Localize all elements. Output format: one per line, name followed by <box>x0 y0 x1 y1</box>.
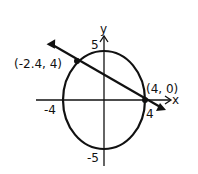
y-axis-label: y <box>100 22 107 36</box>
label-point1: (-2.4, 4) <box>14 57 62 71</box>
label-top: 5 <box>91 38 99 52</box>
line-arrow-start-icon <box>47 39 60 51</box>
label-bottom: -5 <box>87 151 99 165</box>
point-intersection-2 <box>142 97 148 103</box>
label-point2: (4, 0) <box>146 82 178 96</box>
point-intersection-1 <box>74 58 80 64</box>
label-right: 4 <box>146 107 154 121</box>
ellipse-diagram: y x 5 -5 -4 4 (-2.4, 4) (4, 0) <box>0 0 198 174</box>
label-left: -4 <box>44 103 56 117</box>
